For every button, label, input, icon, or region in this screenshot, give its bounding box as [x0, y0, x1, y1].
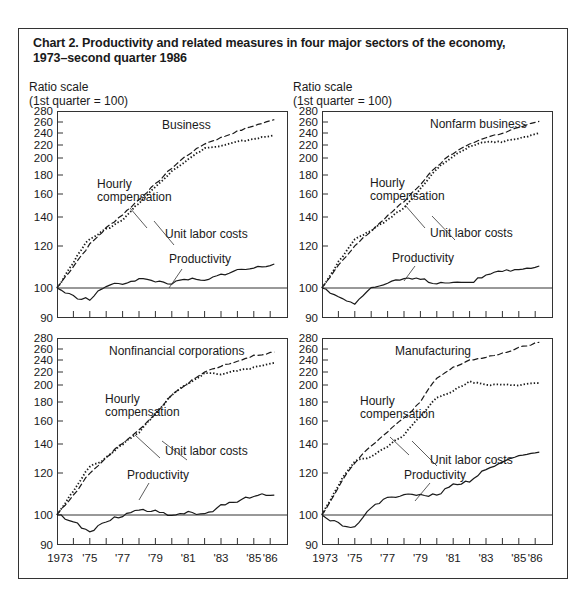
- y-tick-label: 90: [305, 312, 318, 324]
- x-tick-label: '81: [446, 552, 461, 564]
- y-tick-label: 200: [34, 152, 53, 164]
- plot-area: [323, 112, 553, 318]
- x-tick-label: '86: [528, 552, 543, 564]
- y-tick-label: 220: [34, 366, 53, 378]
- y-tick-label: 100: [34, 282, 53, 294]
- x-tick-label: '86: [263, 552, 278, 564]
- y-tick-label: 160: [34, 188, 53, 200]
- x-tick-label: '77: [380, 552, 395, 564]
- y-tick-label: 200: [299, 152, 318, 164]
- chart-title-line1: Chart 2. Productivity and related measur…: [33, 36, 505, 51]
- y-tick-label: 180: [299, 169, 318, 181]
- y-tick-label: 180: [299, 396, 318, 408]
- label-compensation: compensation: [105, 405, 180, 419]
- series-productivity: [57, 264, 274, 300]
- x-tick-label: '83: [479, 552, 494, 564]
- x-tick-label: '79: [148, 552, 163, 564]
- series-hourly-compensation: [57, 352, 274, 515]
- y-axis-label-line1: Ratio scale: [29, 80, 128, 94]
- y-tick-label: 120: [34, 240, 53, 252]
- label-hourly: Hourly: [105, 392, 140, 406]
- plot-area: [323, 339, 553, 545]
- chart-title: Chart 2. Productivity and related measur…: [33, 36, 505, 66]
- y-tick-label: 220: [299, 366, 318, 378]
- y-tick-label: 100: [34, 509, 53, 521]
- label-hourly: Hourly: [360, 394, 395, 408]
- y-tick-label: 90: [40, 312, 53, 324]
- label-compensation: compensation: [360, 407, 435, 421]
- label-productivity: Productivity: [169, 252, 231, 266]
- label-unit-labor-costs: Unit labor costs: [430, 226, 513, 240]
- label-unit-labor-costs: Unit labor costs: [165, 227, 248, 241]
- y-tick-label: 240: [34, 127, 53, 139]
- y-tick-label: 200: [34, 379, 53, 391]
- series-productivity: [322, 266, 539, 304]
- y-axis-label-right: Ratio scale (1st quarter = 100): [293, 80, 392, 108]
- y-tick-label: 120: [299, 467, 318, 479]
- y-tick-label: 240: [34, 354, 53, 366]
- y-tick-label: 220: [299, 139, 318, 151]
- x-tick-label: 1973: [312, 552, 338, 564]
- series-unit-labor-costs: [57, 363, 274, 515]
- y-tick-label: 160: [299, 188, 318, 200]
- plot-area: [58, 339, 288, 545]
- chart-svg: 280260240220200180160140120100901973'75'…: [322, 338, 553, 571]
- panel-title: Nonfarm business: [430, 117, 527, 131]
- y-tick-label: 100: [299, 282, 318, 294]
- y-tick-label: 140: [299, 211, 318, 223]
- label-productivity: Productivity: [392, 251, 454, 265]
- label-hourly: Hourly: [370, 176, 405, 190]
- y-tick-label: 160: [299, 415, 318, 427]
- y-tick-label: 240: [299, 354, 318, 366]
- chart-svg: 280260240220200180160140120100901973'75'…: [57, 338, 288, 571]
- chart-title-line2: 1973–second quarter 1986: [33, 51, 505, 66]
- x-tick-label: 1973: [47, 552, 73, 564]
- panel-title: Nonfinancial corporations: [109, 344, 244, 358]
- chart-svg: 28026024022020018016014012010090Business…: [57, 111, 288, 344]
- x-tick-label: '81: [181, 552, 196, 564]
- y-tick-label: 240: [299, 127, 318, 139]
- y-tick-label: 180: [34, 396, 53, 408]
- y-tick-label: 120: [34, 467, 53, 479]
- y-tick-label: 100: [299, 509, 318, 521]
- series-unit-labor-costs: [57, 135, 274, 288]
- x-tick-label: '77: [115, 552, 130, 564]
- y-tick-label: 120: [299, 240, 318, 252]
- label-productivity: Productivity: [127, 468, 189, 482]
- label-productivity: Productivity: [404, 468, 466, 482]
- y-tick-label: 200: [299, 379, 318, 391]
- label-hourly: Hourly: [97, 177, 132, 191]
- x-tick-label: '75: [347, 552, 362, 564]
- y-tick-label: 140: [299, 438, 318, 450]
- x-tick-label: '85: [511, 552, 526, 564]
- label-compensation: compensation: [97, 190, 172, 204]
- series-productivity: [57, 494, 274, 532]
- panel-title: Business: [162, 118, 211, 132]
- x-tick-label: '83: [214, 552, 229, 564]
- label-compensation: compensation: [370, 189, 445, 203]
- x-tick-label: '75: [82, 552, 97, 564]
- chart-svg: 28026024022020018016014012010090Nonfarm …: [322, 111, 553, 344]
- x-tick-label: '79: [413, 552, 428, 564]
- y-tick-label: 140: [34, 211, 53, 223]
- y-tick-label: 160: [34, 415, 53, 427]
- panel-title: Manufacturing: [395, 344, 471, 358]
- y-tick-label: 140: [34, 438, 53, 450]
- label-unit-labor-costs: Unit labor costs: [165, 444, 248, 458]
- x-tick-label: '85: [246, 552, 261, 564]
- y-tick-label: 90: [305, 539, 318, 551]
- y-axis-label-line1: Ratio scale: [293, 80, 392, 94]
- plot-area: [58, 112, 288, 318]
- series-hourly-compensation: [322, 342, 539, 515]
- y-tick-label: 90: [40, 539, 53, 551]
- y-tick-label: 220: [34, 139, 53, 151]
- y-tick-label: 180: [34, 169, 53, 181]
- label-unit-labor-costs: Unit labor costs: [430, 453, 513, 467]
- y-axis-label-left: Ratio scale (1st quarter = 100): [29, 80, 128, 108]
